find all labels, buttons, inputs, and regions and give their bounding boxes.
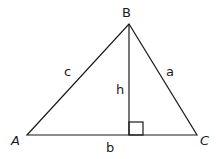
vertex-label-b: B: [122, 5, 131, 20]
side-label-c: c: [64, 64, 71, 79]
vertex-label-a: A: [10, 133, 20, 148]
side-label-b: b: [106, 140, 114, 155]
side-label-a: a: [166, 64, 174, 79]
right-angle-marker: [129, 122, 143, 135]
vertex-label-c: C: [200, 133, 210, 148]
triangle-abc: [27, 24, 197, 135]
height-label-h: h: [116, 82, 124, 97]
triangle-diagram: B A C c a b h: [0, 0, 216, 159]
